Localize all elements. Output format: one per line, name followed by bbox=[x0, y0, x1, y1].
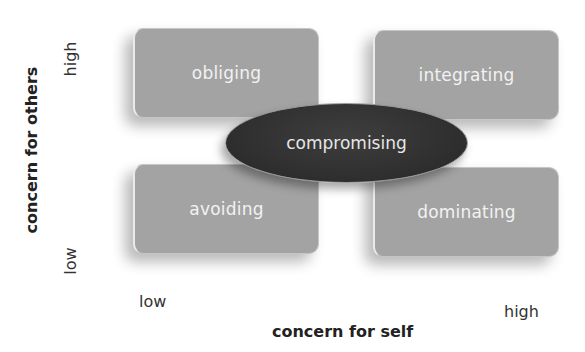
y-axis-low-label: low bbox=[61, 247, 80, 274]
y-axis-title: concern for others bbox=[22, 67, 41, 234]
center-label: compromising bbox=[286, 133, 407, 153]
x-axis-high-label: high bbox=[504, 302, 539, 321]
x-axis-title: concern for self bbox=[272, 322, 413, 341]
center-compromising: compromising bbox=[225, 103, 468, 183]
quadrant-label: avoiding bbox=[189, 199, 263, 219]
quadrant-dominating: dominating bbox=[373, 167, 559, 257]
quadrant-label: dominating bbox=[417, 202, 516, 222]
x-axis-low-label: low bbox=[139, 292, 166, 311]
quadrant-label: integrating bbox=[419, 65, 515, 85]
quadrant-label: obliging bbox=[192, 63, 261, 83]
y-axis-high-label: high bbox=[61, 42, 80, 77]
quadrant-obliging: obliging bbox=[133, 28, 319, 118]
